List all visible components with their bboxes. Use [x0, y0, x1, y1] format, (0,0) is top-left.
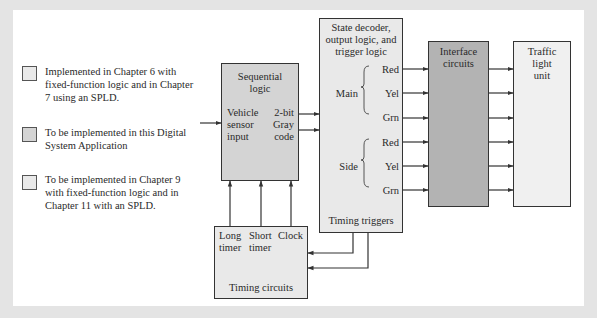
- main-grn-label: Grn: [383, 112, 399, 124]
- main-group-label: Main: [336, 88, 358, 100]
- interface-title-2: circuits: [429, 58, 488, 70]
- clock-label: Clock: [278, 230, 303, 242]
- legend-swatch-this-application: [22, 127, 37, 142]
- vehicle-sensor-label-2: sensor: [227, 119, 254, 131]
- interface-title-1: Interface: [429, 46, 488, 58]
- traffic-light-unit-block: Traffic light unit: [513, 41, 571, 207]
- timing-triggers-label: Timing triggers: [320, 215, 402, 227]
- side-group-label: Side: [339, 161, 358, 173]
- side-grn-label: Grn: [383, 185, 399, 197]
- side-red-label: Red: [382, 137, 399, 149]
- interface-circuits-block: Interface circuits: [428, 41, 489, 207]
- vehicle-sensor-label-3: input: [227, 131, 249, 143]
- sequential-logic-title-1: Sequential: [222, 71, 298, 83]
- legend-text-this-application: To be implemented in this Digital System…: [45, 126, 195, 152]
- legend-swatch-chapter6-7: [22, 66, 37, 81]
- legend-text-chapter9-11: To be implemented in Chapter 9 with fixe…: [45, 173, 195, 212]
- short-timer-label-2: timer: [249, 242, 271, 254]
- traffic-title-1: Traffic: [514, 46, 570, 58]
- traffic-title-3: unit: [514, 70, 570, 82]
- sequential-logic-title-2: logic: [222, 83, 298, 95]
- main-red-label: Red: [382, 64, 399, 76]
- legend-swatch-chapter9-11: [22, 175, 37, 190]
- gray-code-label-2: Gray: [273, 119, 294, 131]
- side-yel-label: Yel: [385, 161, 399, 173]
- traffic-title-2: light: [514, 58, 570, 70]
- gray-code-label-3: code: [274, 131, 294, 143]
- state-decoder-block: State decoder, output logic, and trigger…: [319, 18, 403, 233]
- decoder-title-2: output logic, and: [320, 34, 402, 46]
- timing-circuits-block: Long timer Short timer Clock Timing circ…: [214, 226, 308, 299]
- short-timer-label-1: Short: [249, 230, 272, 242]
- vehicle-sensor-label-1: Vehicle: [227, 107, 259, 119]
- sequential-logic-block: Sequential logic Vehicle sensor input 2-…: [221, 63, 299, 181]
- long-timer-label-1: Long: [219, 230, 241, 242]
- gray-code-label-1: 2-bit: [274, 107, 294, 119]
- legend-text-chapter6-7: Implemented in Chapter 6 with fixed-func…: [45, 65, 195, 104]
- decoder-title-1: State decoder,: [320, 22, 402, 34]
- main-yel-label: Yel: [385, 88, 399, 100]
- decoder-title-3: trigger logic: [320, 46, 402, 58]
- timing-circuits-title: Timing circuits: [215, 282, 307, 294]
- long-timer-label-2: timer: [219, 242, 241, 254]
